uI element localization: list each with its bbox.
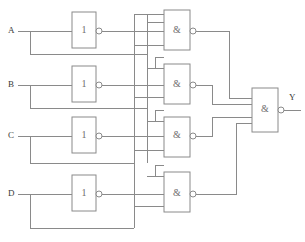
input-label-d: D bbox=[8, 188, 15, 198]
wire-nand2-to-out bbox=[196, 85, 252, 104]
wire-nand2-in-step bbox=[155, 57, 164, 68]
wire-nand4-in-step bbox=[155, 165, 164, 176]
output-label-y: Y bbox=[289, 92, 296, 102]
inverter-label-b: 1 bbox=[82, 78, 87, 89]
inverter-bubble-b bbox=[96, 82, 102, 88]
inverter-label-c: 1 bbox=[82, 129, 87, 140]
nand-bubble-3 bbox=[190, 133, 196, 139]
nand-label-4: & bbox=[173, 187, 181, 198]
input-label-a: A bbox=[8, 25, 15, 35]
nand-label-2: & bbox=[173, 78, 181, 89]
inverter-label-d: 1 bbox=[82, 187, 87, 198]
logic-circuit-figure: A B C D 1 1 1 1 bbox=[0, 0, 305, 242]
wire-nand3-in-step bbox=[155, 110, 164, 121]
input-label-c: C bbox=[8, 130, 14, 140]
wire-nand3-to-out bbox=[196, 117, 252, 136]
nand-bubble-2 bbox=[190, 82, 196, 88]
input-label-b: B bbox=[8, 79, 14, 89]
nand-bubble-1 bbox=[190, 28, 196, 34]
inverter-bubble-c bbox=[96, 133, 102, 139]
nand-label-1: & bbox=[173, 24, 181, 35]
output-nand-bubble bbox=[278, 107, 284, 113]
inverter-label-a: 1 bbox=[82, 24, 87, 35]
output-nand-label: & bbox=[261, 103, 269, 114]
inverter-bubble-d bbox=[96, 191, 102, 197]
inverter-bubble-a bbox=[96, 28, 102, 34]
circuit-svg: A B C D 1 1 1 1 bbox=[0, 0, 305, 242]
wire-nand4-to-out bbox=[196, 123, 252, 194]
nand-bubble-4 bbox=[190, 191, 196, 197]
wire-nand1-to-out bbox=[196, 31, 252, 98]
nand-label-3: & bbox=[173, 129, 181, 140]
